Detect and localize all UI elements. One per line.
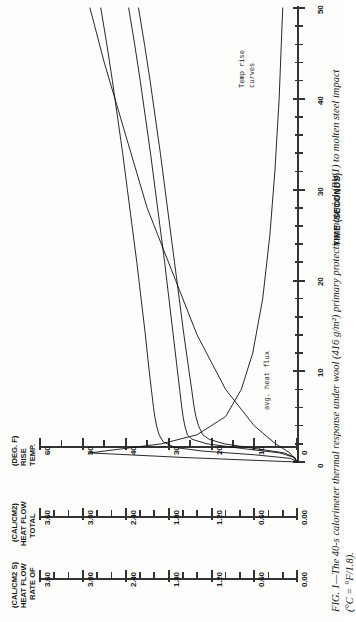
total_heat_flow-tick-label: 1.20 xyxy=(215,510,224,525)
total_heat_flow-tick-label: 3.00 xyxy=(86,510,95,525)
temp_rise-tick xyxy=(211,438,213,450)
temp_rise-tick xyxy=(61,440,63,448)
rate_of_heat_flow-tick-label: 0.60 xyxy=(257,572,266,587)
temp_rise-tick xyxy=(82,438,84,450)
time-tick xyxy=(293,280,305,282)
rate_of_heat_flow-tick xyxy=(96,572,98,580)
time-tick xyxy=(295,44,303,46)
heat-flux-annotation: avg. heat flux xyxy=(263,351,271,410)
total_heat_flow-tick xyxy=(225,510,227,518)
total_heat_flow-tick-label: 2.40 xyxy=(129,510,138,525)
total_heat_flow-tick xyxy=(239,510,241,518)
time-tick xyxy=(295,243,303,245)
total_heat_flow-tick xyxy=(296,508,298,520)
curve-temp-rise-curve-1 xyxy=(139,8,297,462)
total_heat_flow-tick xyxy=(139,510,141,518)
time-axis-line xyxy=(297,6,299,462)
temp_rise-tick xyxy=(275,440,277,448)
time-tick xyxy=(295,207,303,209)
time-tick xyxy=(295,116,303,118)
temp_rise-tick xyxy=(125,438,127,450)
total_heat_flow-tick-label: 3.60 xyxy=(43,510,52,525)
temp-rise-annotation-line1: Temp rise xyxy=(238,50,246,88)
rate_of_heat_flow-tick xyxy=(268,572,270,580)
total_heat_flow-tick xyxy=(53,510,55,518)
rate_of_heat_flow-tick-label: 0.00 xyxy=(300,572,309,587)
temp_rise-tick-label: 20 xyxy=(215,447,224,456)
temp_rise-tick-label: 40 xyxy=(129,447,138,456)
time-tick xyxy=(295,316,303,318)
total_heat_flow-tick xyxy=(82,508,84,520)
rate_of_heat_flow-tick xyxy=(53,572,55,580)
time-tick xyxy=(295,134,303,136)
temp_rise-tick xyxy=(146,440,148,448)
time-tick-label: 10 xyxy=(316,369,325,378)
rate_of_heat_flow-tick xyxy=(111,572,113,580)
total_heat_flow-tick-label: 0.60 xyxy=(257,510,266,525)
temp_rise-tick xyxy=(103,440,105,448)
time-tick xyxy=(295,389,303,391)
time-tick xyxy=(295,25,303,27)
temp_rise-tick xyxy=(232,440,234,448)
temp_rise-tick xyxy=(253,438,255,450)
total_heat_flow-tick xyxy=(168,508,170,520)
total_heat_flow-tick-label: 0.00 xyxy=(300,510,309,525)
total_heat_flow-tick xyxy=(39,508,41,520)
total_heat_flow-tick xyxy=(182,510,184,518)
temp_rise-tick xyxy=(189,440,191,448)
time-tick xyxy=(295,352,303,354)
time-tick xyxy=(293,461,305,463)
time-tick xyxy=(295,298,303,300)
temp_rise-tick-label: 10 xyxy=(257,447,266,456)
rate_of_heat_flow-tick xyxy=(282,572,284,580)
temp_rise-tick-label: 50 xyxy=(86,447,95,456)
rate_of_heat_flow-tick xyxy=(68,572,70,580)
time-tick-label: 20 xyxy=(316,278,325,287)
time-tick xyxy=(293,7,305,9)
total-heat-flow-axis-title-line2: HEAT FLOW xyxy=(19,501,28,546)
total_heat_flow-tick xyxy=(196,510,198,518)
time-tick xyxy=(295,62,303,64)
rate_of_heat_flow-tick xyxy=(182,572,184,580)
rate-of-heat-flow-axis-title-line3: (CAL/CM2 S) xyxy=(10,562,19,608)
curve-temp-rise-curve-2 xyxy=(129,8,297,462)
rate_of_heat_flow-tick-label: 1.20 xyxy=(215,572,224,587)
rate_of_heat_flow-tick xyxy=(239,572,241,580)
rate_of_heat_flow-tick xyxy=(139,572,141,580)
time-tick xyxy=(295,225,303,227)
figure-caption-line2: (°C = °F/1.8). xyxy=(343,12,356,612)
time-tick xyxy=(295,80,303,82)
time-tick xyxy=(295,152,303,154)
rate_of_heat_flow-tick xyxy=(82,570,84,582)
temp_rise-tick xyxy=(168,438,170,450)
temp_rise-tick-label: 60 xyxy=(43,447,52,456)
total_heat_flow-tick-label: 1.80 xyxy=(172,510,181,525)
time-tick xyxy=(295,261,303,263)
time-tick-label: 40 xyxy=(316,96,325,105)
temp-rise-axis-title-line1: TEMP. xyxy=(28,444,37,466)
time-tick xyxy=(295,425,303,427)
temp-rise-axis-title-line2: RISE xyxy=(19,448,28,466)
time-tick xyxy=(293,189,305,191)
rate_of_heat_flow-tick xyxy=(39,570,41,582)
rate_of_heat_flow-tick xyxy=(296,570,298,582)
temp_rise-tick xyxy=(296,438,298,450)
time-tick-label: 30 xyxy=(316,187,325,196)
temp_rise-tick-label: 0 xyxy=(300,451,309,455)
temp_rise-tick-label: 30 xyxy=(172,447,181,456)
rate-of-heat-flow-axis-title-line2: HEAT FLOW xyxy=(19,563,28,608)
figure-caption-line1: FIG. 1—The 40-s calorimeter thermal resp… xyxy=(329,12,342,612)
time-tick xyxy=(293,370,305,372)
rate_of_heat_flow-tick xyxy=(168,570,170,582)
total-heat-flow-axis-title-line1: TOTAL xyxy=(28,513,37,538)
total_heat_flow-tick xyxy=(68,510,70,518)
time-tick xyxy=(293,98,305,100)
rate_of_heat_flow-tick xyxy=(225,572,227,580)
temp_rise-tick xyxy=(39,438,41,450)
total_heat_flow-tick xyxy=(211,508,213,520)
rate_of_heat_flow-tick-label: 3.00 xyxy=(86,572,95,587)
rate_of_heat_flow-tick xyxy=(153,572,155,580)
total_heat_flow-tick xyxy=(96,510,98,518)
time-tick-label: 50 xyxy=(316,6,325,15)
